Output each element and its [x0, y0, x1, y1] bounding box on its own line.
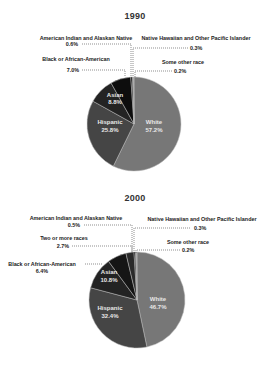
chart-1990: 1990 American Indian and Alaskan Native …: [40, 11, 252, 171]
pct-amind-1990: 0.6%: [66, 41, 78, 47]
leader-line-american-indian-and-alaskan-native: [84, 225, 132, 253]
pct-asian-2000: 10.8%: [100, 277, 118, 283]
label-asian-2000: Asian: [101, 269, 118, 275]
pie-charts-figure: 1990 American Indian and Alaskan Native …: [0, 0, 269, 370]
chart-2000: 2000 American Indian and Alaskan Native …: [8, 193, 257, 348]
label-hispanic-1990: Hispanic: [97, 119, 123, 125]
label-two-2000: Two or more races: [40, 235, 88, 241]
leader-line-some-other-race: [135, 71, 172, 77]
pct-white-1990: 57.2%: [145, 127, 163, 133]
pct-two-2000: 2.7%: [57, 243, 69, 249]
pie-2000: [89, 252, 185, 348]
chart-title-1990: 1990: [124, 11, 145, 21]
label-amind-1990: American Indian and Alaskan Native: [40, 35, 133, 41]
pct-nhpi-2000: 0.3%: [194, 225, 206, 231]
label-nhpi-1990: Native Hawaiian and Other Pacific Island…: [141, 35, 251, 41]
pct-nhpi-1990: 0.3%: [190, 45, 202, 51]
pct-hispanic-2000: 32.4%: [101, 313, 119, 319]
chart-title-2000: 2000: [124, 193, 145, 203]
label-asian-1990: Asian: [107, 92, 124, 98]
label-white-2000: White: [150, 296, 167, 302]
pct-other-1990: 0.2%: [174, 68, 186, 74]
label-other-2000: Some other race: [167, 239, 209, 245]
pct-other-2000: 0.2%: [182, 247, 194, 253]
pct-asian-1990: 8.8%: [108, 99, 122, 105]
leader-line-black-or-african-american: [82, 70, 125, 77]
leader-line-two-or-more-races: [72, 246, 132, 253]
label-nhpi-2000: Native Hawaiian and Other Pacific Island…: [147, 216, 257, 222]
label-black-1990: Black or African-American: [42, 56, 110, 62]
label-other-1990: Some other race: [162, 59, 204, 65]
label-black-2000: Black or African-American: [8, 261, 76, 267]
label-amind-2000: American Indian and Alaskan Native: [30, 215, 123, 221]
label-hispanic-2000: Hispanic: [97, 305, 123, 311]
pct-hispanic-1990: 25.8%: [101, 127, 119, 133]
pct-black-2000: 6.4%: [36, 268, 48, 274]
pct-white-2000: 46.7%: [149, 304, 167, 310]
pct-amind-2000: 0.5%: [68, 222, 80, 228]
label-white-1990: White: [146, 119, 163, 125]
pct-black-1990: 7.0%: [67, 67, 79, 73]
